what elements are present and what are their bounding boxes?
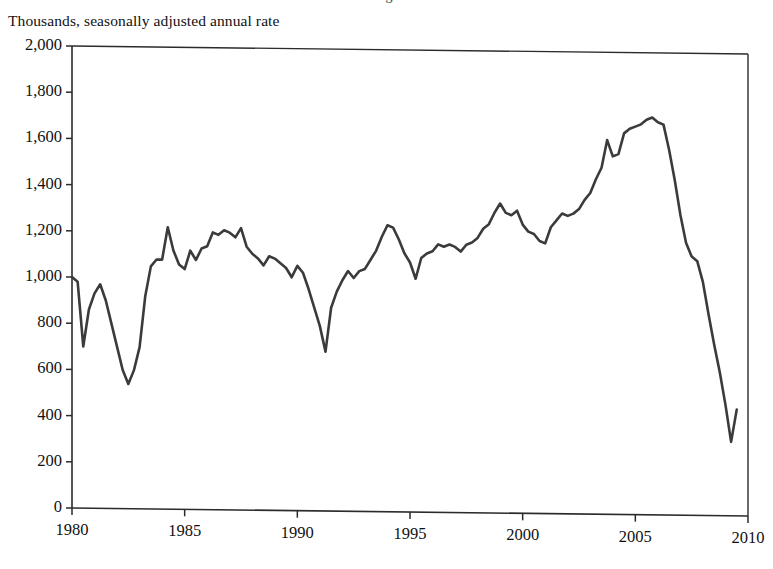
y-tick-label: 1,000 [0, 266, 62, 286]
plot-area: 02004006008001,0001,2001,4001,6001,8002,… [0, 0, 773, 569]
housing-starts-figure: Housing Starts Thousands, seasonally adj… [0, 0, 773, 569]
x-tick-label: 1985 [150, 521, 220, 541]
series-line [72, 118, 737, 442]
y-tick-label: 0 [0, 497, 62, 517]
y-tick-label: 1,800 [0, 81, 62, 101]
y-tick-label: 2,000 [0, 35, 62, 55]
axes-group [72, 46, 748, 516]
y-tick-label: 1,600 [0, 127, 62, 147]
y-tick-label: 1,400 [0, 174, 62, 194]
y-tick-label: 1,200 [0, 220, 62, 240]
plot-top-rule [72, 46, 748, 54]
chart-canvas [0, 0, 773, 569]
x-tick-label: 1980 [37, 520, 107, 540]
x-tick-label: 1990 [262, 523, 332, 543]
x-tick-label: 1995 [375, 524, 445, 544]
y-tick-label: 800 [0, 312, 62, 332]
x-tick-label: 2000 [488, 525, 558, 545]
axis-ticks-group [66, 46, 748, 523]
y-tick-label: 200 [0, 451, 62, 471]
y-tick-label: 600 [0, 358, 62, 378]
y-tick-label: 400 [0, 405, 62, 425]
x-tick-label: 2005 [600, 527, 670, 547]
data-series-group [72, 118, 737, 442]
x-tick-label: 2010 [713, 528, 773, 548]
